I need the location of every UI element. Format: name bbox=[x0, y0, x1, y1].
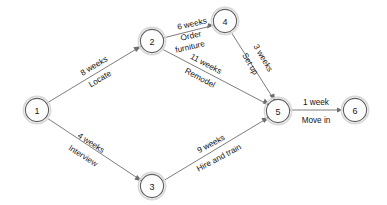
node-6[interactable]: 6 bbox=[341, 96, 368, 123]
edge-2-5: 11 weeks Remodel bbox=[162, 49, 271, 106]
edge-1-2-line bbox=[47, 48, 138, 103]
node-1[interactable]: 1 bbox=[23, 96, 50, 123]
network-diagram: 8 weeks Locate 4 weeks Interview 6 weeks… bbox=[0, 0, 387, 205]
edge-1-3: 4 weeks Interview bbox=[47, 118, 143, 181]
edge-5-6: 1 week Move in bbox=[290, 98, 343, 125]
edge-4-5: 3 weeks Set up bbox=[231, 32, 275, 102]
edge-2-4: 6 weeks Order furniture bbox=[163, 16, 215, 55]
node-1-label: 1 bbox=[34, 106, 39, 116]
node-5-label: 5 bbox=[275, 107, 280, 117]
edge-3-5: 9 weeks Hire and train bbox=[163, 117, 270, 181]
edge-5-6-activity: Move in bbox=[302, 116, 331, 125]
node-3[interactable]: 3 bbox=[138, 172, 165, 199]
node-2[interactable]: 2 bbox=[138, 27, 165, 54]
node-3-label: 3 bbox=[149, 182, 154, 192]
edge-5-6-duration: 1 week bbox=[303, 98, 330, 107]
node-4-label: 4 bbox=[222, 17, 227, 27]
node-6-label: 6 bbox=[352, 106, 357, 116]
edge-2-4-activity-line2: furniture bbox=[174, 39, 206, 55]
network-diagram-canvas: 8 weeks Locate 4 weeks Interview 6 weeks… bbox=[0, 0, 387, 205]
node-5[interactable]: 5 bbox=[264, 97, 291, 124]
node-2-label: 2 bbox=[149, 37, 154, 47]
edge-2-4-duration: 6 weeks bbox=[176, 16, 207, 32]
edge-3-5-line bbox=[163, 119, 266, 181]
edge-1-2: 8 weeks Locate bbox=[47, 46, 142, 103]
node-4[interactable]: 4 bbox=[211, 7, 238, 34]
